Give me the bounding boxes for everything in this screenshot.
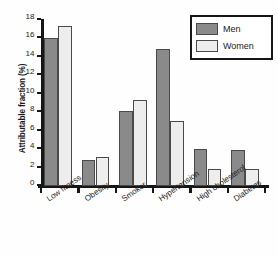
- y-axis-tick-label: 16: [26, 30, 35, 40]
- x-axis-tick: [152, 187, 154, 193]
- legend-label-men: Men: [223, 24, 241, 34]
- y-axis-tick-label: 6: [30, 123, 34, 133]
- bar-women-hypertension: [170, 121, 184, 186]
- legend-item-women: Women: [196, 37, 267, 54]
- x-axis-tick: [77, 187, 79, 193]
- y-axis-tick-label: 8: [30, 104, 34, 114]
- x-axis-tick: [40, 187, 42, 193]
- chart-legend: Men Women: [190, 15, 273, 60]
- x-axis-tick: [115, 187, 117, 193]
- y-axis-tick-label: 14: [26, 49, 35, 59]
- y-axis-tick-label: 0: [30, 178, 34, 188]
- bar-men-high-cholesterol: [194, 149, 208, 186]
- x-axis-tick: [264, 187, 266, 193]
- y-axis-tick-label: 18: [26, 12, 35, 22]
- legend-label-women: Women: [223, 41, 254, 51]
- bar-men-low-fitness: [44, 38, 58, 186]
- y-axis-tick-label: 10: [26, 86, 35, 96]
- bar-women-smoker: [133, 100, 147, 186]
- legend-swatch-women: [196, 40, 218, 52]
- x-axis-tick: [227, 187, 229, 193]
- legend-swatch-men: [196, 23, 218, 35]
- y-axis-tick-label: 2: [30, 160, 34, 170]
- y-axis-tick-label: 12: [26, 67, 35, 77]
- bar-men-hypertension: [156, 49, 170, 186]
- legend-item-men: Men: [196, 20, 267, 37]
- bar-chart-figure: Attributable fraction (%) 02468101214161…: [0, 0, 278, 257]
- bar-men-smoker: [119, 111, 133, 186]
- x-axis-tick: [189, 187, 191, 193]
- y-axis-tick-label: 4: [30, 141, 34, 151]
- bar-men-obesity: [82, 160, 96, 186]
- bar-women-low-fitness: [58, 26, 72, 186]
